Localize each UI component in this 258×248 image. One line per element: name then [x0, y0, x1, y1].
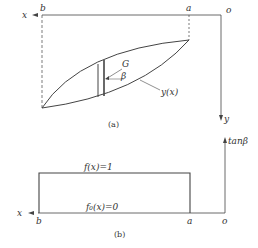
- curve-leader-line: [140, 80, 160, 90]
- point-b-label-b: b: [36, 216, 42, 226]
- point-a-label-a: a: [186, 3, 191, 13]
- y-axis-arrow-icon: [223, 137, 227, 143]
- origin-label-b: o: [222, 216, 228, 226]
- x-axis-arrow-icon: [32, 13, 38, 17]
- x-axis-label-b: x: [17, 208, 22, 218]
- upper-function-label: f(x)=1: [83, 162, 113, 172]
- upper-curve: [42, 40, 189, 108]
- panel-a: x b a o y G β y(x) (a): [22, 3, 232, 129]
- x-axis-arrow-icon: [28, 211, 34, 215]
- caption-b: (b): [114, 230, 125, 239]
- y-axis-label-a: y: [223, 114, 230, 124]
- y-axis-arrow-icon: [219, 115, 223, 121]
- curve-y-x-label: y(x): [160, 87, 179, 97]
- lower-curve-y-x: [42, 40, 189, 108]
- panel-b: x b a o tanβ f(x)=1 f₀(x)=0 (b): [17, 136, 248, 239]
- point-a-label-b: a: [187, 216, 192, 226]
- lower-function-label: f₀(x)=0: [85, 202, 119, 212]
- angle-beta-label: β: [120, 71, 126, 81]
- point-b-label-a: b: [40, 3, 46, 13]
- y-axis-label-b: tanβ: [228, 136, 248, 146]
- caption-a: (a): [108, 120, 119, 129]
- origin-label-a: o: [226, 5, 232, 15]
- point-g-label: G: [122, 59, 129, 69]
- x-axis-label-a: x: [22, 10, 27, 20]
- g-pointer-arrow-icon: [105, 76, 109, 80]
- diagram-canvas: x b a o y G β y(x) (a) x b a o tanβ f(x)…: [0, 0, 258, 248]
